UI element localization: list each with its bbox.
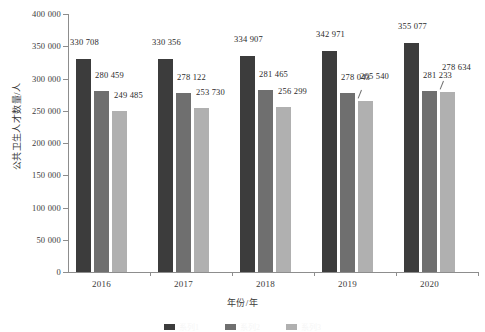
x-axis-tick-label: 2018 [231, 279, 301, 289]
y-axis-tick-label: 350 000 [5, 42, 61, 51]
bar [94, 91, 109, 272]
bar [422, 91, 437, 272]
x-axis-tick-label: 2019 [313, 279, 383, 289]
bar [340, 93, 355, 272]
y-axis-tick-label: 300 000 [5, 75, 61, 84]
x-axis-line [68, 272, 478, 273]
bar [176, 93, 191, 272]
bar-value-label: 256 299 [278, 87, 307, 96]
x-axis-tick-label: 2017 [149, 279, 219, 289]
bar [258, 90, 273, 272]
bar-value-label: 278 634 [442, 63, 471, 72]
x-axis-tick-label: 2016 [67, 279, 137, 289]
bar [322, 51, 337, 272]
chart-legend: 系列1系列2系列3 [0, 321, 485, 332]
bar [194, 108, 209, 272]
bar [276, 107, 291, 272]
legend-swatch [164, 324, 175, 330]
plot-area: 330 708280 459249 485330 356278 122253 7… [68, 14, 478, 272]
bar-value-label: 280 459 [95, 71, 124, 80]
bar-value-label: 278 122 [177, 73, 206, 82]
legend-swatch [225, 324, 236, 330]
legend-label: 系列3 [301, 321, 321, 332]
bar-value-label: 342 971 [316, 30, 345, 39]
bar-value-label: 334 907 [234, 35, 263, 44]
y-axis-tick-label: 100 000 [5, 204, 61, 213]
legend-swatch [286, 324, 297, 330]
y-axis-tick-label: 0 [5, 268, 61, 277]
bar-value-label: 249 485 [114, 91, 143, 100]
bar [404, 43, 419, 272]
bar [358, 101, 373, 272]
y-axis-tick-label: 200 000 [5, 139, 61, 148]
x-axis-tick [478, 272, 479, 276]
bar [440, 92, 455, 272]
label-leader-line [440, 81, 444, 90]
x-axis-tick [232, 272, 233, 276]
bar-value-label: 355 077 [398, 22, 427, 31]
y-axis-tick [63, 272, 68, 273]
legend-label: 系列2 [240, 321, 260, 332]
y-axis-tick-label: 400 000 [5, 10, 61, 19]
bar [112, 111, 127, 272]
bar-value-label: 281 465 [259, 70, 288, 79]
bar-value-label: 330 708 [70, 38, 99, 47]
bar-value-label: 265 540 [360, 72, 389, 81]
x-axis-tick [314, 272, 315, 276]
legend-label: 系列1 [179, 321, 199, 332]
x-axis-tick-label: 2020 [395, 279, 465, 289]
bar [158, 59, 173, 272]
bar [76, 59, 91, 272]
y-axis-tick-label: 50 000 [5, 236, 61, 245]
x-axis-tick [396, 272, 397, 276]
legend-item: 系列2 [225, 321, 260, 332]
legend-item: 系列3 [286, 321, 321, 332]
bar-value-label: 330 356 [152, 38, 181, 47]
x-axis-tick [150, 272, 151, 276]
bar-value-label: 253 730 [196, 88, 225, 97]
label-leader-line [358, 90, 362, 99]
y-axis-tick-label: 250 000 [5, 107, 61, 116]
y-axis-tick-label: 150 000 [5, 171, 61, 180]
bar [240, 56, 255, 272]
legend-item: 系列1 [164, 321, 199, 332]
x-axis-title: 年份/年 [0, 296, 485, 309]
